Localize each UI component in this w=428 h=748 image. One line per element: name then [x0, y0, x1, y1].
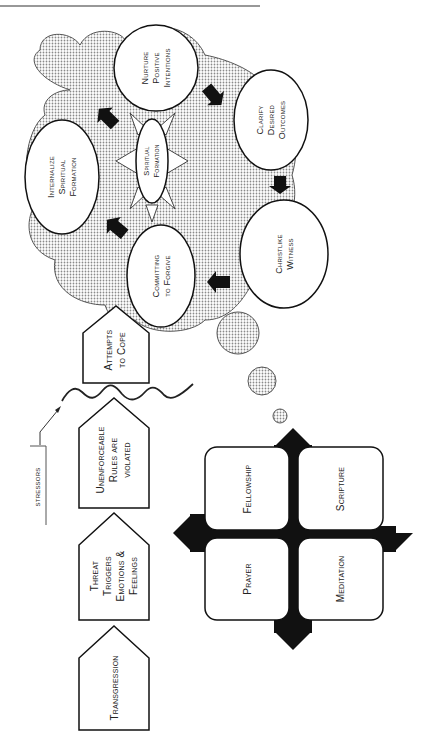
- label-center-2: Formation: [152, 144, 161, 177]
- label-clarify-2: Desired: [266, 104, 276, 135]
- label-unenforceable-1: Unenforceable: [95, 426, 106, 493]
- label-christlike-1: Christlike: [274, 234, 284, 274]
- label-internalize-2: Spiritual: [57, 159, 67, 194]
- label-fellowship: Fellowship: [242, 464, 253, 513]
- label-stressors: stressors: [33, 468, 42, 507]
- label-attempts-2: to Cope: [116, 332, 127, 368]
- label-internalize-3: Formation: [68, 157, 78, 196]
- label-unenforceable-2: Rules are: [108, 438, 119, 483]
- node-forgive: [127, 225, 195, 327]
- label-threat-4: Feelings: [128, 557, 139, 595]
- label-scripture: Scripture: [335, 467, 346, 511]
- label-unenforceable-3: violated: [121, 442, 132, 478]
- label-clarify-1: Clarify: [255, 106, 265, 135]
- label-nurture-1: Nurture: [140, 52, 150, 85]
- label-nurture-2: Positive: [151, 52, 161, 83]
- label-threat-1: Threat: [89, 560, 100, 591]
- bubble-large: [217, 312, 259, 354]
- label-clarify-3: Outcomes: [277, 101, 287, 140]
- disciplines-grid: Fellowship Scripture Prayer Meditation: [173, 428, 413, 650]
- label-prayer: Prayer: [242, 563, 253, 594]
- label-internalize-1: Internalize: [46, 156, 56, 198]
- label-attempts-1: Attempts: [103, 329, 114, 370]
- label-forgive-2: to Forgive: [162, 255, 172, 297]
- bubble-medium: [248, 367, 276, 395]
- label-transgression: Transgression: [109, 655, 120, 720]
- label-meditation: Meditation: [335, 556, 346, 603]
- label-nurture-3: Intentions: [162, 48, 172, 87]
- bubble-small: [273, 409, 287, 423]
- spiritual-formation-diagram: Spiritual Formation Nurture Positive Int…: [0, 0, 428, 748]
- thought-bubbles: [217, 312, 287, 423]
- stress-wave: [62, 384, 193, 401]
- stressors-arrow: [40, 410, 58, 445]
- label-threat-3: Emotions &: [115, 550, 126, 601]
- label-forgive-1: Committing: [151, 254, 161, 297]
- label-threat-2: Triggers: [102, 556, 113, 596]
- node-christlike: [240, 200, 328, 308]
- label-center: Spiritual: [142, 146, 151, 175]
- label-christlike-2: Witness: [285, 238, 295, 270]
